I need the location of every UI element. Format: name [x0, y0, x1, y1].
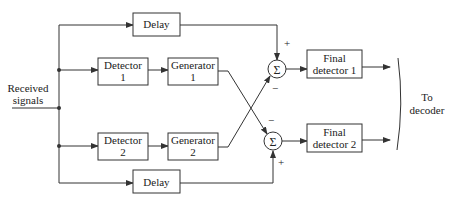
delay-bottom-block: Delay	[133, 170, 180, 193]
svg-text:detector 2: detector 2	[313, 138, 357, 150]
svg-text:Generator: Generator	[171, 134, 215, 146]
minus-sign: −	[272, 82, 278, 94]
svg-text:signals: signals	[13, 94, 44, 106]
svg-text:1: 1	[120, 71, 126, 83]
svg-text:decoder: decoder	[410, 104, 445, 116]
svg-text:Delay: Delay	[143, 176, 170, 188]
svg-text:Final: Final	[323, 126, 346, 138]
svg-text:1: 1	[190, 71, 196, 83]
final-detector1-block: Final detector 1	[307, 50, 362, 78]
plus-sign: +	[278, 156, 284, 168]
svg-text:Σ: Σ	[270, 135, 277, 149]
svg-text:Final: Final	[323, 52, 346, 64]
plus-sign: +	[284, 37, 290, 49]
block-diagram: Received signals Delay Detector 1 Genera…	[0, 0, 452, 205]
minus-sign: −	[268, 114, 274, 126]
wire-generator1-to-sum2	[218, 71, 267, 134]
wire-generator2-to-sum1	[218, 76, 270, 147]
delay-top-block: Delay	[133, 13, 180, 36]
generator2-block: Generator 2	[168, 133, 218, 160]
svg-text:Detector: Detector	[104, 134, 142, 146]
wire-delay-top-to-sum1	[180, 25, 277, 60]
svg-text:detector 1: detector 1	[313, 64, 357, 76]
svg-text:To: To	[421, 91, 433, 103]
svg-text:2: 2	[120, 146, 126, 158]
output-bracket	[397, 58, 401, 150]
summer-1: Σ + −	[268, 37, 290, 94]
detector2-block: Detector 2	[98, 133, 148, 160]
svg-text:Generator: Generator	[171, 59, 215, 71]
svg-text:Delay: Delay	[143, 18, 170, 30]
svg-text:Received: Received	[8, 82, 49, 94]
summer-2: Σ − +	[264, 114, 284, 168]
svg-text:Σ: Σ	[274, 63, 281, 77]
generator1-block: Generator 1	[168, 58, 218, 85]
detector1-block: Detector 1	[98, 58, 148, 85]
received-signals-label: Received signals	[8, 82, 49, 106]
final-detector2-block: Final detector 2	[307, 124, 362, 152]
svg-text:Detector: Detector	[104, 59, 142, 71]
junction-dot	[57, 106, 61, 110]
svg-text:2: 2	[190, 146, 196, 158]
to-decoder-label: To decoder	[410, 91, 445, 116]
